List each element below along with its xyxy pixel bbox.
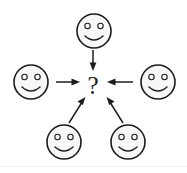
diagram-canvas: ?	[0, 0, 187, 173]
arrow-shaft	[111, 103, 124, 123]
question-mark: ?	[87, 72, 98, 99]
arrow-shaft	[69, 103, 82, 123]
arrow-bottom-left-to-center	[69, 97, 86, 123]
arrow-top-to-center	[90, 50, 97, 71]
arrow-bottom-right-to-center	[107, 97, 124, 123]
face-outline	[14, 65, 48, 99]
arrow-right-to-center	[107, 79, 133, 86]
arrow-head	[78, 97, 86, 105]
arrow-left-to-center	[56, 79, 80, 86]
smiley-face-top	[77, 14, 111, 48]
left-eye-icon	[85, 23, 90, 28]
right-eye-icon	[132, 134, 137, 139]
smiley-face-left	[14, 65, 48, 99]
smiley-face-bottom-right	[111, 125, 145, 159]
arrow-head	[107, 79, 116, 86]
smiley-face-bottom-left	[47, 125, 81, 159]
right-eye-icon	[162, 74, 167, 79]
face-outline	[47, 125, 81, 159]
face-outline	[77, 14, 111, 48]
face-outline	[111, 125, 145, 159]
arrow-head	[72, 79, 81, 86]
face-outline	[141, 65, 175, 99]
arrow-head	[107, 97, 115, 105]
smiley-face-right	[141, 65, 175, 99]
arrow-head	[90, 63, 97, 72]
left-eye-icon	[22, 74, 27, 79]
right-eye-icon	[35, 74, 40, 79]
right-eye-icon	[68, 134, 73, 139]
right-eye-icon	[98, 23, 103, 28]
left-eye-icon	[149, 74, 154, 79]
left-eye-icon	[55, 134, 60, 139]
left-eye-icon	[119, 134, 124, 139]
smiley-question-diagram: ?	[0, 0, 187, 173]
